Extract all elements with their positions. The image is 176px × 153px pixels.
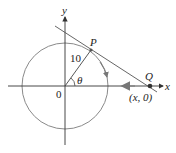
circle-motion-arrow — [100, 62, 107, 77]
angle-label: θ — [77, 74, 83, 86]
point-q-label: Q — [145, 70, 153, 82]
q-coords-label: (x, 0) — [129, 91, 153, 104]
point-p — [89, 48, 92, 51]
origin-label: 0 — [56, 88, 62, 100]
angle-arc — [71, 78, 75, 86]
point-q — [148, 84, 153, 89]
circle-tangent-diagram: y x 0 P Q 10 θ (x, 0) — [0, 0, 176, 153]
x-axis-label: x — [164, 80, 170, 92]
point-p-label: P — [89, 36, 97, 48]
radius-label: 10 — [70, 52, 82, 64]
y-axis-label: y — [61, 4, 67, 16]
